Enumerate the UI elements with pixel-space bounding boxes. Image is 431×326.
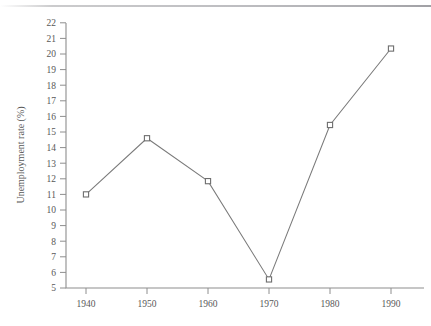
y-tick-label: 16 bbox=[47, 112, 57, 122]
y-tick-label: 12 bbox=[47, 174, 57, 184]
y-tick-label: 7 bbox=[51, 252, 56, 262]
y-axis-title: Unemployment rate (%) bbox=[15, 106, 27, 203]
y-tick-label: 22 bbox=[47, 18, 57, 28]
data-point-marker bbox=[327, 122, 332, 127]
y-tick-label: 14 bbox=[47, 143, 57, 153]
data-point-marker bbox=[205, 179, 210, 184]
x-tick-label: 1950 bbox=[138, 299, 157, 309]
y-tick-label: 19 bbox=[47, 65, 57, 75]
x-tick-label: 1980 bbox=[321, 299, 340, 309]
data-point-marker bbox=[83, 192, 88, 197]
x-tick-label: 1990 bbox=[382, 299, 401, 309]
y-tick-label: 5 bbox=[51, 283, 56, 293]
data-point-marker bbox=[144, 136, 149, 141]
chart-figure: Unemployment rate (%) 5 bbox=[0, 0, 431, 326]
y-tick-labels: 5 6 7 8 9 10 11 12 13 14 15 16 17 18 19 … bbox=[47, 18, 57, 293]
y-tick-label: 9 bbox=[51, 221, 56, 231]
data-point-marker bbox=[266, 277, 271, 282]
axis-spines bbox=[66, 23, 424, 288]
x-tick-marks bbox=[86, 288, 391, 294]
y-tick-label: 21 bbox=[47, 34, 57, 44]
y-tick-label: 17 bbox=[47, 96, 57, 106]
y-tick-label: 20 bbox=[47, 49, 57, 59]
y-tick-marks bbox=[60, 23, 66, 288]
line-chart-plot: Unemployment rate (%) 5 bbox=[0, 0, 431, 326]
data-point-marker bbox=[388, 46, 393, 51]
y-tick-label: 10 bbox=[47, 205, 57, 215]
x-tick-label: 1960 bbox=[199, 299, 218, 309]
y-tick-label: 6 bbox=[51, 268, 56, 278]
data-point-markers bbox=[83, 46, 393, 282]
y-tick-label: 13 bbox=[47, 159, 57, 169]
y-tick-label: 15 bbox=[47, 127, 57, 137]
x-tick-label: 1940 bbox=[77, 299, 96, 309]
y-tick-label: 11 bbox=[47, 190, 56, 200]
y-tick-label: 8 bbox=[51, 237, 56, 247]
x-tick-labels: 1940 1950 1960 1970 1980 1990 bbox=[77, 299, 401, 309]
data-series-line bbox=[86, 49, 391, 280]
y-tick-label: 18 bbox=[47, 81, 57, 91]
x-tick-label: 1970 bbox=[260, 299, 279, 309]
